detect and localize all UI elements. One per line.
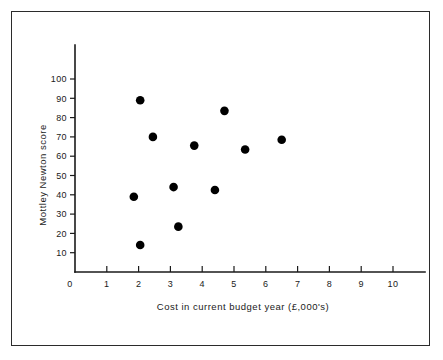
y-tick-label: 10 xyxy=(56,248,67,258)
x-tick-label: 1 xyxy=(104,279,109,289)
x-tick-label: 2 xyxy=(136,279,141,289)
chart-svg: 102030405060708090100 12345678910 0 Mott… xyxy=(0,0,443,360)
y-tick-label: 90 xyxy=(56,94,67,104)
data-point xyxy=(277,136,286,145)
scatter-plot-figure: 102030405060708090100 12345678910 0 Mott… xyxy=(0,0,443,360)
x-tick-label: 5 xyxy=(231,279,236,289)
data-point xyxy=(211,186,220,195)
y-axis-tick-labels: 102030405060708090100 xyxy=(51,74,67,258)
data-point xyxy=(190,141,199,150)
x-tick-label: 6 xyxy=(263,279,268,289)
data-point xyxy=(169,183,178,192)
x-axis-title: Cost in current budget year (£,000's) xyxy=(157,301,329,312)
data-point xyxy=(149,133,158,142)
x-tick-label: 8 xyxy=(327,279,332,289)
data-point xyxy=(136,241,145,250)
y-tick-label: 40 xyxy=(56,190,67,200)
x-tick-label: 4 xyxy=(199,279,204,289)
data-point xyxy=(136,96,145,105)
y-tick-label: 60 xyxy=(56,151,67,161)
data-point-group xyxy=(130,96,286,249)
data-point xyxy=(174,222,183,231)
x-tick-label: 3 xyxy=(168,279,173,289)
y-tick-label: 100 xyxy=(51,74,67,84)
data-point xyxy=(241,145,250,154)
y-tick-label: 70 xyxy=(56,132,67,142)
x-tick-label: 9 xyxy=(358,279,363,289)
x-tick-label: 10 xyxy=(388,279,399,289)
y-tick-label: 80 xyxy=(56,113,67,123)
data-point xyxy=(130,192,139,201)
plot-area: 102030405060708090100 12345678910 0 Mott… xyxy=(0,0,443,360)
y-tick-label: 30 xyxy=(56,209,67,219)
y-tick-label: 50 xyxy=(56,171,67,181)
y-tick-label: 20 xyxy=(56,229,67,239)
y-axis-origin-label: 0 xyxy=(67,279,72,289)
x-axis-tick-labels: 12345678910 xyxy=(104,279,398,289)
x-tick-label: 7 xyxy=(295,279,300,289)
y-axis-title: Mottley Newton score xyxy=(37,124,48,225)
x-axis-ticks xyxy=(107,266,393,272)
data-point xyxy=(220,107,229,116)
